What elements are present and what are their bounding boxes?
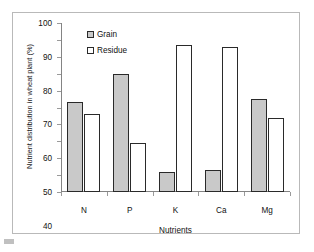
x-tick (153, 192, 154, 196)
x-tick-label-mg: Mg (261, 206, 272, 215)
y-tick: 100 (57, 23, 61, 24)
bar-k-residue (176, 45, 192, 192)
x-tick-label-k: K (173, 206, 178, 215)
legend-label-residue: Residue (97, 46, 127, 55)
legend: Grain Residue (87, 26, 177, 58)
y-tick: 40 (57, 124, 61, 125)
y-tick: 60 (57, 91, 61, 92)
x-tick (198, 192, 199, 196)
y-tick-label: 100 (38, 19, 52, 28)
y-tick: 30 (57, 141, 61, 142)
x-axis-title: Nutrients (61, 226, 290, 235)
x-tick-label-p: P (127, 206, 132, 215)
y-tick-label: 80 (43, 86, 52, 95)
bar-p-residue (130, 143, 146, 192)
y-tick: 10 (57, 175, 61, 176)
y-axis-line (61, 23, 62, 193)
y-tick-label: 50 (43, 188, 52, 197)
bar-n-residue (84, 114, 100, 192)
x-tick (61, 192, 62, 196)
y-tick-label: 40 (43, 221, 52, 230)
legend-swatch-grain-icon (87, 31, 94, 38)
legend-item-residue: Residue (87, 42, 177, 58)
y-tick-label: 70 (43, 120, 52, 129)
y-axis-title: Nutrient distribution in wheat plant (%) (25, 17, 34, 197)
x-tick (107, 192, 108, 196)
y-tick-label: 90 (43, 52, 52, 61)
figure-container: Nutrient distribution in wheat plant (%)… (0, 0, 314, 252)
corner-artifact (4, 239, 14, 244)
bar-mg-residue (268, 118, 284, 192)
y-tick: 90 (57, 40, 61, 41)
x-tick-label-ca: Ca (216, 206, 226, 215)
bar-n-grain (67, 102, 83, 192)
bar-k-grain (159, 172, 175, 192)
bar-ca-residue (222, 47, 238, 192)
legend-item-grain: Grain (87, 26, 177, 42)
bar-ca-grain (205, 170, 221, 192)
bar-p-grain (113, 74, 129, 192)
y-tick: 20 (57, 158, 61, 159)
x-tick-label-n: N (81, 206, 87, 215)
legend-swatch-residue-icon (87, 47, 94, 54)
legend-label-grain: Grain (97, 30, 117, 39)
x-tick (290, 192, 291, 196)
y-tick: 70 (57, 74, 61, 75)
y-tick-label: 60 (43, 154, 52, 163)
y-tick: 50 (57, 108, 61, 109)
y-tick: 80 (57, 57, 61, 58)
bar-mg-grain (251, 99, 267, 192)
x-tick (244, 192, 245, 196)
